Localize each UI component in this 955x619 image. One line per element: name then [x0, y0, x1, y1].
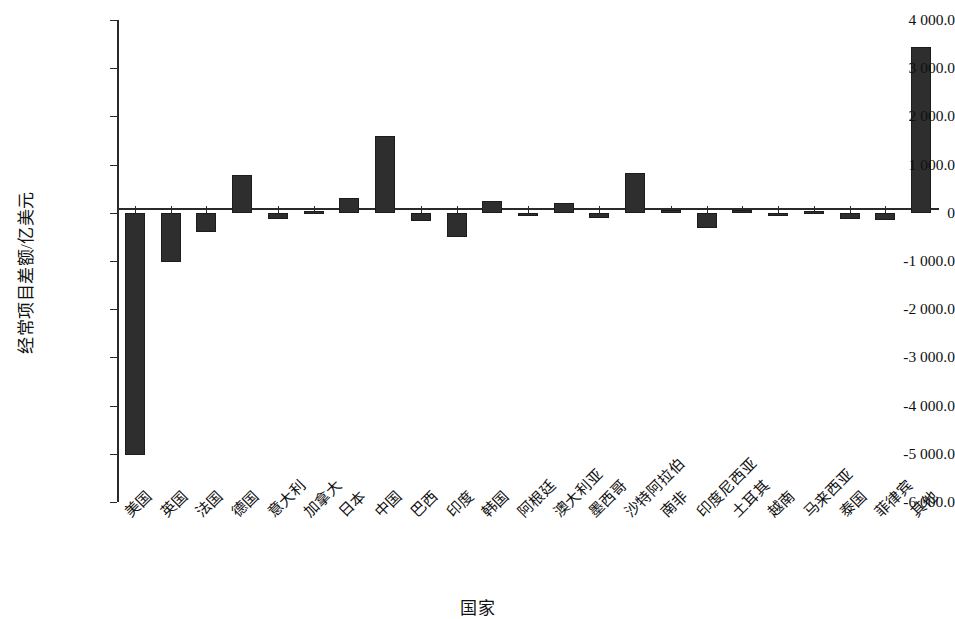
y-axis-tick-label: -2 000.0 [852, 301, 955, 317]
bar-chart: 经常项目差额/亿美元 4 000.03 000.02 000.01 000.00… [0, 0, 955, 619]
x-axis-tick [171, 206, 172, 213]
x-axis-tick [707, 206, 708, 213]
bar [447, 213, 467, 238]
y-axis-tick-label: -1 000.0 [852, 253, 955, 269]
bar [625, 173, 645, 213]
y-axis-tick [110, 261, 117, 262]
bar [411, 213, 431, 222]
bar [518, 213, 538, 216]
y-axis-tick [110, 116, 117, 117]
y-axis-tick [110, 213, 117, 214]
y-axis-tick-label: 1 000.0 [852, 157, 955, 173]
x-axis-tick [206, 206, 207, 213]
x-axis-tick [850, 206, 851, 213]
bar [732, 210, 752, 213]
bar [697, 213, 717, 228]
y-axis-tick [110, 309, 117, 310]
y-axis-tick [110, 20, 117, 21]
x-axis-tick [278, 206, 279, 213]
x-axis-tick [778, 206, 779, 213]
y-axis-tick [110, 502, 117, 503]
bar [125, 213, 145, 455]
bar [304, 211, 324, 214]
bar [804, 211, 824, 214]
y-axis-tick-label: -5 000.0 [852, 446, 955, 462]
y-axis-tick-label: -4 000.0 [852, 398, 955, 414]
x-axis-tick [457, 206, 458, 213]
y-axis-tick [110, 454, 117, 455]
bar [482, 201, 502, 213]
y-axis-tick [110, 357, 117, 358]
bar [661, 210, 681, 213]
y-axis-tick-label: 0 [852, 205, 955, 221]
x-axis-tick [135, 206, 136, 213]
y-axis-tick-label: 2 000.0 [852, 108, 955, 124]
y-axis-title: 经常项目差额/亿美元 [12, 153, 37, 393]
bar [554, 203, 574, 213]
y-axis-tick [110, 68, 117, 69]
bar [375, 136, 395, 213]
x-axis-title: 国家 [0, 594, 955, 619]
x-axis-tick [599, 206, 600, 213]
x-axis-tick [421, 206, 422, 213]
y-axis-tick [110, 406, 117, 407]
y-axis-line [117, 20, 119, 502]
y-axis-tick [110, 165, 117, 166]
plot-area [117, 20, 939, 502]
bar [196, 213, 216, 232]
bar [268, 213, 288, 219]
y-axis-tick-label: -3 000.0 [852, 349, 955, 365]
y-axis-tick-label: 3 000.0 [852, 60, 955, 76]
bar [339, 198, 359, 213]
bar [232, 175, 252, 213]
y-axis-tick-label: 4 000.0 [852, 12, 955, 28]
bar [589, 213, 609, 218]
bar [161, 213, 181, 262]
x-axis-tick [528, 206, 529, 213]
bar [768, 213, 788, 216]
